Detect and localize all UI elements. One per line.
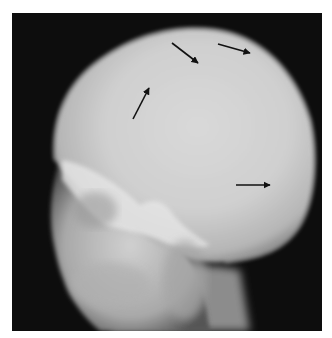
orbit-region [73,192,117,228]
skull-xray [12,13,322,331]
vertebrae-region [163,240,207,320]
mandible-region [70,263,150,307]
xray-image-panel [12,13,322,331]
